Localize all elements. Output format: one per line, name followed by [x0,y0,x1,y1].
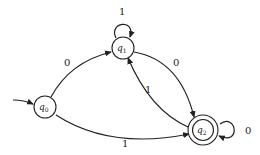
edge-q0-q1-label: 0 [64,57,70,68]
loop-q1 [115,24,131,38]
start-arrow [13,100,33,104]
loop-q1-label: 1 [119,6,125,17]
edge-q2-q1-label: 1 [145,84,151,95]
edge-q0-q1 [51,52,111,97]
edge-q0-q2 [56,115,189,139]
state-q2-accepting: q2 [188,115,218,145]
edge-q1-q2-label: 0 [173,57,179,68]
state-q1: q1 [112,37,134,59]
edge-q0-q2-label: 1 [122,138,128,149]
loop-q2 [219,121,234,137]
edge-q1-q2 [134,52,194,117]
automaton-diagram: 0 1 1 0 1 0 q0 q1 q2 [0,0,260,155]
state-q0: q0 [34,96,56,118]
edge-q2-q1 [128,58,188,127]
loop-q2-label: 0 [245,125,251,136]
